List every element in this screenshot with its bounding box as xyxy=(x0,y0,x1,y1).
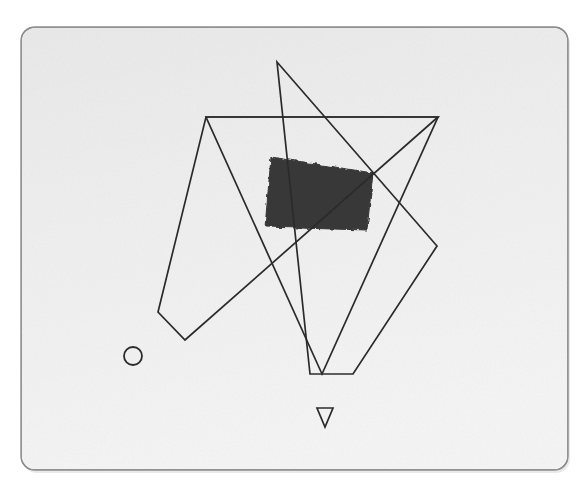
shape-card xyxy=(21,27,568,470)
card-surface xyxy=(21,27,568,470)
image-canvas: Geometric Shapes Card Photographed light… xyxy=(0,0,588,495)
shapes-scene xyxy=(0,0,588,495)
